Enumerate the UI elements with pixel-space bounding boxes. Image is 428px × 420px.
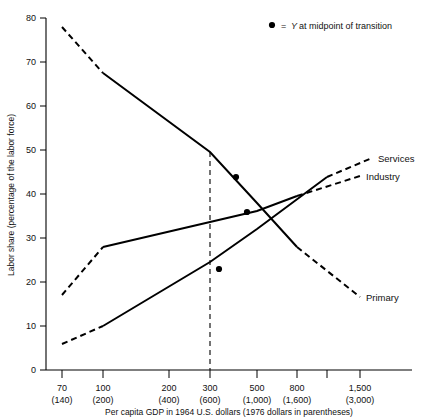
y-tick-label-70: 70: [26, 57, 36, 67]
industry-dashed-start: [62, 247, 103, 295]
primary-dashed-start: [62, 27, 103, 73]
y-tick-label-30: 30: [26, 233, 36, 243]
y-axis-title: Labor share (percentage of the labor for…: [6, 114, 16, 276]
curve-label-industry: Industry: [366, 171, 400, 182]
axes-group: [46, 18, 412, 370]
series-primary: Primary: [62, 27, 399, 303]
x-tick-paren-200: (200): [92, 395, 113, 405]
midpoint-dot-primary: [216, 266, 222, 272]
legend-dot-icon: [269, 22, 275, 28]
services-dashed-start: [62, 326, 103, 344]
x-tick-paren-600: (600): [199, 395, 220, 405]
y-tick-label-60: 60: [26, 101, 36, 111]
x-tick-paren-1600: (1,600): [283, 395, 312, 405]
curve-label-services: Services: [378, 153, 415, 164]
y-tick-label-10: 10: [26, 321, 36, 331]
legend-equals-sign: =: [281, 21, 286, 31]
x-tick-label-300: 300: [202, 383, 217, 393]
primary-dashed-end: [297, 247, 360, 297]
legend: = Y at midpoint of transition: [269, 21, 392, 31]
y-tick-label-50: 50: [26, 145, 36, 155]
x-tick-label-100: 100: [95, 383, 110, 393]
midpoint-dot-industry: [244, 209, 250, 215]
x-tick-label-70: 70: [57, 383, 67, 393]
x-tick-paren-3000: (3,000): [346, 395, 375, 405]
x-axis-title: Per capita GDP in 1964 U.S. dollars (197…: [105, 407, 353, 417]
x-tick-paren-1000: (1,000): [243, 395, 272, 405]
y-tick-label-80: 80: [26, 13, 36, 23]
y-tick-label-20: 20: [26, 277, 36, 287]
x-tick-label-500: 500: [249, 383, 264, 393]
legend-symbol-y: Y: [291, 21, 298, 31]
series-industry: Industry: [62, 171, 400, 295]
labor-share-chart: 0 10 20 30 40 50 60 70 80 70 100 200 300…: [0, 0, 428, 420]
legend-description: at midpoint of transition: [299, 21, 392, 31]
x-tick-label-800: 800: [289, 383, 304, 393]
x-axis-ticks: 70 100 200 300 500 800 1,500 (140) (200)…: [51, 370, 374, 405]
x-tick-label-1500: 1,500: [349, 383, 372, 393]
y-tick-label-0: 0: [31, 365, 36, 375]
x-tick-paren-400: (400): [158, 395, 179, 405]
curve-label-primary: Primary: [366, 292, 399, 303]
midpoint-dot-services: [233, 174, 239, 180]
services-solid: [103, 177, 327, 326]
y-axis-ticks: 0 10 20 30 40 50 60 70 80: [26, 13, 46, 375]
x-tick-paren-140: (140): [51, 395, 72, 405]
x-tick-label-200: 200: [161, 383, 176, 393]
y-tick-label-40: 40: [26, 189, 36, 199]
chart-figure: 0 10 20 30 40 50 60 70 80 70 100 200 300…: [0, 0, 428, 420]
